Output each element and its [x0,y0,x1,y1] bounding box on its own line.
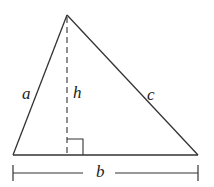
label-height-h: h [73,84,82,101]
label-side-a: a [22,85,31,102]
side-c-line [67,15,198,155]
triangle-diagram [0,0,214,187]
label-side-c: c [147,86,155,103]
right-angle-marker [67,139,83,155]
label-base-b: b [96,163,105,180]
